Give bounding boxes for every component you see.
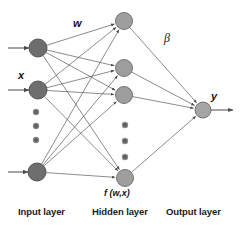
ellipsis-dot-hidden-1 bbox=[122, 122, 127, 127]
edge-h2-o1 bbox=[132, 72, 195, 106]
input-label-x: x bbox=[18, 69, 24, 81]
neuron-h4 bbox=[117, 170, 134, 187]
input-arrows-group bbox=[8, 48, 29, 172]
edge-i1-h2 bbox=[47, 50, 114, 66]
ellipsis-dots-group bbox=[33, 109, 127, 159]
edge-h4-o1 bbox=[131, 116, 195, 172]
neuron-h2 bbox=[116, 60, 133, 77]
hidden-output-edges-group bbox=[130, 27, 197, 172]
input-hidden-edges-group bbox=[41, 24, 119, 177]
ellipsis-dot-hidden-2 bbox=[122, 138, 127, 143]
neuron-i2 bbox=[29, 81, 47, 99]
ellipsis-dot-input-3 bbox=[33, 137, 38, 142]
edge-h3-o1 bbox=[132, 97, 193, 109]
ellipsis-dot-input-2 bbox=[33, 123, 38, 128]
neuron-i3 bbox=[28, 163, 46, 181]
edge-i1-h4 bbox=[43, 55, 119, 169]
caption-output-layer: Output layer bbox=[166, 206, 221, 217]
edge-i3-h1 bbox=[41, 30, 119, 165]
neural-network-figure: w β x y f (w,x) Input layer Hidden layer… bbox=[0, 0, 245, 227]
ellipsis-dot-input-1 bbox=[33, 109, 38, 114]
caption-hidden-layer: Hidden layer bbox=[92, 206, 148, 217]
neuron-h1 bbox=[116, 13, 133, 30]
ellipsis-dot-hidden-3 bbox=[122, 154, 127, 159]
hidden-function-label: f (w,x) bbox=[104, 188, 130, 198]
beta-label: β bbox=[164, 31, 170, 46]
edge-i2-h2 bbox=[47, 70, 115, 87]
neuron-h3 bbox=[116, 87, 133, 104]
edge-i3-h4 bbox=[46, 173, 115, 178]
output-label-y: y bbox=[211, 90, 217, 102]
edge-i3-h2 bbox=[43, 76, 118, 165]
edge-i2-h1 bbox=[45, 27, 116, 84]
neuron-o1 bbox=[195, 102, 211, 118]
edge-i2-h4 bbox=[44, 96, 118, 170]
weight-label-w: w bbox=[73, 17, 82, 29]
neuron-i1 bbox=[29, 39, 47, 57]
caption-input-layer: Input layer bbox=[18, 206, 65, 217]
